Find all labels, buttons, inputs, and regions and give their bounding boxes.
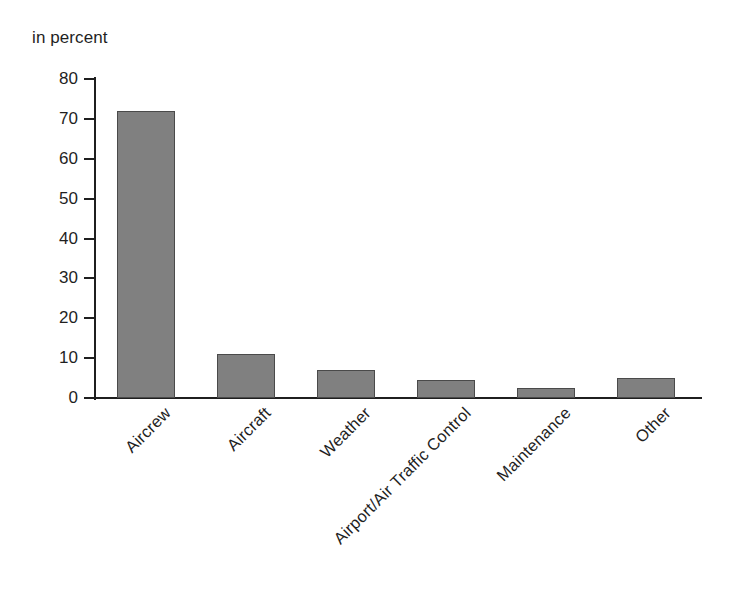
y-axis-tick [84,198,95,200]
y-axis-tick [84,397,95,399]
x-axis-tick-label: Other [632,404,674,446]
y-axis-tick [84,357,95,359]
y-axis-tick-label: 60 [32,150,78,167]
y-axis-tick [84,317,95,319]
y-axis-tick-label-wrap: 80 [26,70,78,87]
y-axis-tick-label: 0 [32,389,78,406]
bar-aircraft[interactable] [217,354,275,398]
y-axis-tick [84,78,95,80]
y-axis-tick-label: 70 [32,110,78,127]
y-axis-tick-label-wrap: 30 [26,269,78,286]
y-axis-tick-label-wrap: 10 [26,349,78,366]
x-axis-tick-label: Aircraft [224,404,274,454]
y-axis-tick [84,238,95,240]
y-axis-tick [84,277,95,279]
y-axis-tick-label: 50 [32,190,78,207]
y-axis-tick-label-wrap: 40 [26,230,78,247]
y-axis-tick [84,118,95,120]
y-axis-tick-label: 30 [32,269,78,286]
x-axis-line [94,397,702,399]
x-axis-tick-label: Maintenance [494,404,574,484]
y-axis-tick-label: 40 [32,230,78,247]
plot-area: 0 10 20 30 40 50 60 70 8 [0,0,735,614]
y-axis-tick-label-wrap: 50 [26,190,78,207]
y-axis-tick-label: 80 [32,70,78,87]
bar-chart-figure: in percent 0 10 20 30 40 50 60 [0,0,735,614]
y-axis-tick-label-wrap: 20 [26,309,78,326]
y-axis-tick-label-wrap: 0 [26,389,78,406]
bar-weather[interactable] [317,370,375,398]
y-axis-tick-label-wrap: 70 [26,110,78,127]
bar-airport-air-traffic-control[interactable] [417,380,475,398]
y-axis-tick-label-wrap: 60 [26,150,78,167]
bar-other[interactable] [617,378,675,398]
x-axis-tick-label: Aircrew [122,404,174,456]
x-axis-tick-label: Weather [317,404,374,461]
y-axis-tick [84,158,95,160]
bar-aircrew[interactable] [117,111,175,398]
bar-maintenance[interactable] [517,388,575,398]
y-axis-tick-label: 20 [32,309,78,326]
y-axis-tick-label: 10 [32,349,78,366]
